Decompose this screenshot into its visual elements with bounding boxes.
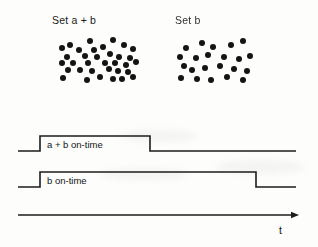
data-dot: [106, 66, 112, 72]
data-dot: [102, 60, 108, 66]
data-dot: [224, 74, 230, 80]
data-dot: [194, 76, 200, 82]
data-dot: [77, 67, 83, 73]
dot-density-and-timing-figure: Set a + b Set b a + b on-time b on-time …: [0, 0, 318, 247]
data-dot: [64, 54, 70, 60]
data-dot: [240, 77, 246, 83]
data-dot: [130, 74, 136, 80]
data-dot: [107, 51, 113, 57]
data-dot: [127, 55, 133, 61]
data-dot: [110, 76, 116, 82]
time-axis-arrowhead: [291, 212, 299, 218]
data-dot: [240, 38, 246, 44]
data-dot: [76, 47, 82, 53]
waveform-label-b-on-time: b on-time: [47, 175, 87, 186]
data-dot: [221, 54, 227, 60]
waveform-label-a-plus-b-on-time: a + b on-time: [47, 139, 103, 150]
data-dot: [70, 60, 76, 66]
data-dot: [59, 60, 65, 66]
dot-cluster-set-b: [177, 38, 253, 83]
data-dot: [228, 42, 234, 48]
data-dot: [59, 45, 65, 51]
data-dot: [112, 60, 118, 66]
data-dot: [231, 66, 237, 72]
data-dot: [123, 62, 129, 68]
data-dot: [121, 42, 127, 48]
data-dot: [115, 68, 121, 74]
data-dot: [205, 52, 211, 58]
data-dot: [183, 45, 189, 51]
data-dot: [97, 74, 103, 80]
data-dot: [89, 68, 95, 74]
data-dot: [85, 60, 91, 66]
data-dot: [181, 63, 187, 69]
data-dot: [202, 65, 208, 71]
data-dot: [177, 54, 183, 60]
data-dot: [199, 40, 205, 46]
data-dot: [94, 54, 100, 60]
figure-canvas: [0, 0, 318, 247]
data-dot: [67, 42, 73, 48]
data-dot: [87, 38, 93, 44]
data-dot: [247, 53, 253, 59]
dot-cluster-set-a-plus-b: [59, 37, 139, 83]
data-dot: [178, 75, 184, 81]
data-dot: [119, 76, 125, 82]
data-dot: [236, 56, 242, 62]
time-axis-label: t: [279, 224, 282, 236]
data-dot: [189, 67, 195, 73]
data-dot: [133, 59, 139, 65]
data-dot: [65, 67, 71, 73]
data-dot: [100, 44, 106, 50]
data-dot: [210, 44, 216, 50]
data-dot: [116, 54, 122, 60]
data-dot: [82, 53, 88, 59]
data-dot: [208, 77, 214, 83]
data-dot: [91, 47, 97, 53]
data-dot: [110, 37, 116, 43]
data-dot: [193, 55, 199, 61]
data-dot: [217, 63, 223, 69]
data-dot: [84, 77, 90, 83]
data-dot: [244, 68, 250, 74]
data-dot: [125, 69, 131, 75]
data-dot: [130, 46, 136, 52]
data-dot: [60, 75, 66, 81]
